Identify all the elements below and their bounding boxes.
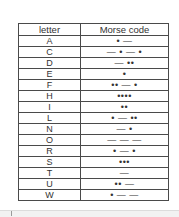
letter-cell: U [19, 179, 81, 190]
table-row: I•• [19, 102, 169, 113]
table-row: R• — • [19, 146, 169, 157]
letter-cell: W [19, 190, 81, 201]
morse-code-cell: •• — [81, 179, 169, 190]
morse-code-cell: •• [81, 102, 169, 113]
table-row: C— • — • [19, 47, 169, 58]
table-row: A• — [19, 36, 169, 47]
morse-code-cell: — — — [81, 135, 169, 146]
morse-code-cell: — • [81, 124, 169, 135]
column-header-letter: letter [19, 24, 81, 36]
morse-code-cell: ••• [81, 157, 169, 168]
letter-cell: E [19, 69, 81, 80]
table-row: S••• [19, 157, 169, 168]
morse-code-cell: — • — • [81, 47, 169, 58]
ruler-tick-marker [11, 211, 12, 216]
morse-code-cell: • [81, 69, 169, 80]
morse-code-cell: •••• [81, 91, 169, 102]
table-row: H•••• [19, 91, 169, 102]
document-page: letter Morse code A• — C— • — • D— •• E•… [0, 0, 179, 210]
morse-code-cell: — •• [81, 58, 169, 69]
letter-cell: F [19, 80, 81, 91]
letter-cell: S [19, 157, 81, 168]
letter-cell: N [19, 124, 81, 135]
table-row: L• — •• [19, 113, 169, 124]
letter-cell: I [19, 102, 81, 113]
morse-code-cell: • — — [81, 190, 169, 201]
table-row: U•• — [19, 179, 169, 190]
letter-cell: D [19, 58, 81, 69]
morse-code-cell: — [81, 168, 169, 179]
table-row: E• [19, 69, 169, 80]
column-header-morse-code: Morse code [81, 24, 169, 36]
morse-code-cell: • — [81, 36, 169, 47]
morse-code-table: letter Morse code A• — C— • — • D— •• E•… [18, 23, 169, 201]
letter-cell: A [19, 36, 81, 47]
morse-code-cell: • — • [81, 146, 169, 157]
morse-code-cell: •• — • [81, 80, 169, 91]
table-row: W• — — [19, 190, 169, 201]
letter-cell: R [19, 146, 81, 157]
letter-cell: L [19, 113, 81, 124]
table-row: N— • [19, 124, 169, 135]
morse-code-cell: • — •• [81, 113, 169, 124]
letter-cell: H [19, 91, 81, 102]
letter-cell: T [19, 168, 81, 179]
table-row: O— — — [19, 135, 169, 146]
table-row: T— [19, 168, 169, 179]
table-row: D— •• [19, 58, 169, 69]
letter-cell: O [19, 135, 81, 146]
bottom-scroll-bar[interactable] [0, 210, 179, 217]
letter-cell: C [19, 47, 81, 58]
table-header-row: letter Morse code [19, 24, 169, 36]
table-row: F•• — • [19, 80, 169, 91]
